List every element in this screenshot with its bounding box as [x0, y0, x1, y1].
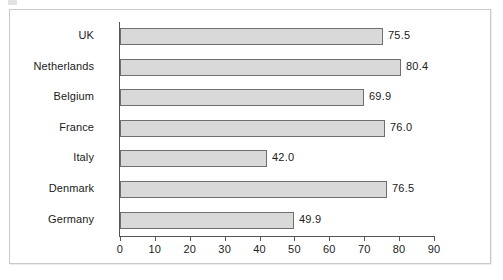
chart-figure-frame: 0102030405060708090 UK75.5Netherlands80.… [9, 9, 491, 264]
x-axis-tick [120, 237, 121, 241]
bar-value-label: 69.9 [369, 90, 391, 102]
bar[interactable] [120, 150, 267, 167]
bar-row: Netherlands80.4 [10, 59, 492, 76]
x-axis-tick [155, 237, 156, 241]
bar[interactable] [120, 120, 385, 137]
category-label: France [59, 121, 94, 133]
x-axis-tick-label: 90 [414, 243, 454, 255]
bar[interactable] [120, 28, 383, 45]
x-axis-tick [434, 237, 435, 241]
x-axis-tick [260, 237, 261, 241]
x-axis-tick [294, 237, 295, 241]
bar-value-label: 49.9 [299, 213, 321, 225]
category-label: Denmark [49, 182, 94, 194]
category-label: Belgium [54, 90, 94, 102]
bar[interactable] [120, 59, 401, 76]
category-label: Netherlands [34, 60, 94, 72]
bar-value-label: 75.5 [388, 29, 410, 41]
bar-value-label: 42.0 [272, 151, 294, 163]
bar-value-label: 76.5 [392, 182, 414, 194]
x-axis-tick [364, 237, 365, 241]
category-label: UK [79, 29, 94, 41]
bar-row: Denmark76.5 [10, 181, 492, 198]
bar-value-label: 80.4 [406, 60, 428, 72]
category-label: Italy [73, 151, 94, 163]
x-axis-tick [399, 237, 400, 241]
bar-row: Germany49.9 [10, 212, 492, 229]
x-axis-tick [225, 237, 226, 241]
x-axis-tick [329, 237, 330, 241]
category-label: Germany [48, 213, 94, 225]
bar-row: UK75.5 [10, 28, 492, 45]
bar-value-label: 76.0 [390, 121, 412, 133]
bar-row: Italy42.0 [10, 150, 492, 167]
bar[interactable] [120, 181, 387, 198]
bar[interactable] [120, 89, 364, 106]
plot-area: 0102030405060708090 UK75.5Netherlands80.… [10, 10, 490, 263]
top-left-artifact [8, 0, 17, 5]
x-axis-line [119, 236, 435, 237]
bar-row: France76.0 [10, 120, 492, 137]
x-axis-tick [190, 237, 191, 241]
bar[interactable] [120, 212, 294, 229]
bar-row: Belgium69.9 [10, 89, 492, 106]
